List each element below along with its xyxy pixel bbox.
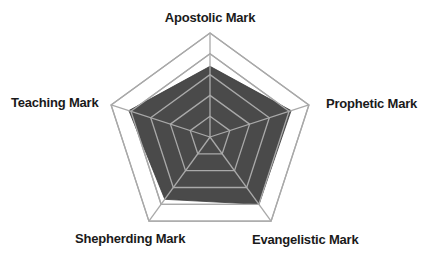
axis-label-prophetic: Prophetic Mark bbox=[326, 96, 417, 111]
radar-chart bbox=[0, 0, 427, 263]
axis-label-apostolic: Apostolic Mark bbox=[165, 10, 255, 25]
axis-label-evangelistic: Evangelistic Mark bbox=[252, 232, 358, 247]
axis-label-teaching: Teaching Mark bbox=[11, 95, 98, 110]
axis-label-shepherding: Shepherding Mark bbox=[75, 231, 185, 246]
